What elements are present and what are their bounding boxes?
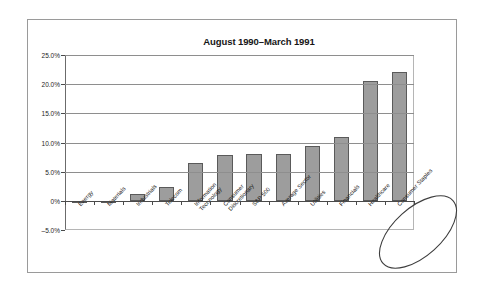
y-axis-tick-mark xyxy=(61,143,65,144)
zero-baseline xyxy=(65,201,414,202)
gridline xyxy=(65,84,414,85)
y-axis-tick-label: 5.0% xyxy=(26,168,60,175)
gridline xyxy=(65,55,414,56)
y-axis-tick-label: 0% xyxy=(26,197,60,204)
y-axis-tick-label: 15.0% xyxy=(26,110,60,117)
y-axis-tick-label: 25.0% xyxy=(26,52,60,59)
y-axis-tick-labels: 25.0%20.0%15.0%10.0%5.0%0%–5.0% xyxy=(22,0,60,292)
bar xyxy=(363,81,378,201)
y-axis-tick-mark xyxy=(61,55,65,56)
bar xyxy=(334,137,349,201)
y-axis-tick-mark xyxy=(61,201,65,202)
gridline xyxy=(65,172,414,173)
y-axis-tick-label: –5.0% xyxy=(26,227,60,234)
y-axis-tick-mark xyxy=(61,230,65,231)
y-axis-tick-mark xyxy=(61,113,65,114)
gridline xyxy=(65,143,414,144)
bar xyxy=(392,72,407,201)
chart-title: August 1990–March 1991 xyxy=(0,36,482,47)
gridline xyxy=(65,113,414,114)
y-axis-tick-mark xyxy=(61,84,65,85)
y-axis-tick-label: 10.0% xyxy=(26,139,60,146)
chart-page: August 1990–March 1991 25.0%20.0%15.0%10… xyxy=(0,0,482,292)
y-axis-tick-mark xyxy=(61,172,65,173)
x-axis-tick-labels: EnergyMaterialsIndustrialsTelecomInforma… xyxy=(65,203,414,283)
x-axis-tick-mark xyxy=(414,201,415,205)
y-axis-tick-label: 20.0% xyxy=(26,81,60,88)
